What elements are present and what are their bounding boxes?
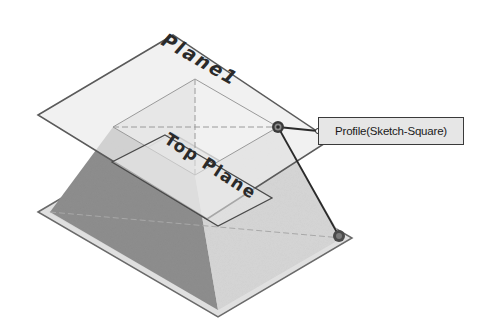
target-handle-icon[interactable] [272, 121, 284, 133]
target-handle-icon[interactable] [333, 230, 345, 242]
graphics-viewport[interactable]: Plane1 Top Plane Profile(Sketch-Square) [0, 0, 497, 330]
model-geometry: Plane1 Top Plane [0, 0, 497, 330]
profile-callout-label: Profile(Sketch-Square) [335, 125, 447, 137]
profile-callout[interactable]: Profile(Sketch-Square) [318, 117, 464, 145]
